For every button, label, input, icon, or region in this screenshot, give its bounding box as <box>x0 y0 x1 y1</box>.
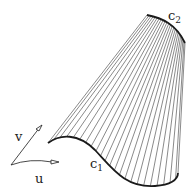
u-arrowhead-icon <box>51 160 59 164</box>
label-c1: c1 <box>90 156 103 173</box>
ruling-line <box>131 29 176 182</box>
ruled-surface-diagram: c1 c2 v u <box>0 0 195 195</box>
ruling-line <box>91 19 161 146</box>
ruling-line <box>110 23 169 165</box>
u-axis-arrow <box>11 161 52 165</box>
label-u: u <box>35 171 43 186</box>
label-c2: c2 <box>168 8 181 25</box>
ruling-line <box>105 22 167 161</box>
label-v: v <box>14 129 23 144</box>
ruling-line <box>100 21 165 156</box>
ruling-line <box>67 16 154 136</box>
ruling-line <box>60 16 151 137</box>
v-arrowhead-icon <box>36 125 42 131</box>
ruling-line <box>54 15 149 139</box>
uv-axes: v u <box>11 125 59 186</box>
ruling-line <box>137 30 177 184</box>
ruling-lines <box>48 15 185 186</box>
ruling-line <box>73 17 155 137</box>
